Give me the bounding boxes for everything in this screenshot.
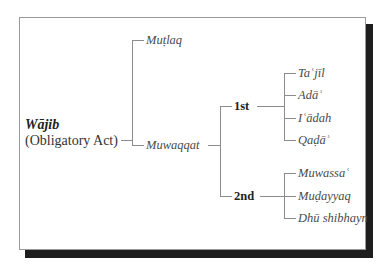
node-muwassa: Muwassaʿ	[298, 166, 349, 180]
level2-bracket	[220, 106, 221, 197]
node-first: 1st	[234, 99, 249, 113]
qada-connector	[284, 140, 296, 141]
ada-connector	[284, 95, 296, 96]
muwassa-connector	[284, 173, 296, 174]
first-group-bracket	[284, 73, 285, 141]
node-qada: Qaḍāʾ	[298, 133, 330, 147]
dhu-shibhayn-connector	[284, 218, 296, 219]
node-tajil: Taʿjīl	[298, 66, 325, 80]
mudayyaq-connector	[284, 196, 296, 197]
muwaqqat-connector	[132, 145, 144, 146]
tajil-connector	[284, 73, 296, 74]
level1-bracket	[132, 40, 133, 146]
node-mutlaq: Muṭlaq	[146, 33, 182, 47]
second-out-connector	[260, 196, 284, 197]
iadah-connector	[284, 118, 296, 119]
node-dhu-shibhayn: Dhū shibhayn	[298, 211, 368, 225]
first-out-connector	[257, 106, 284, 107]
root-node-subtitle: (Obligatory Act)	[25, 134, 118, 148]
first-connector	[220, 106, 232, 107]
second-connector	[220, 196, 232, 197]
muwaqqat-out-connector	[208, 145, 220, 146]
root-node-title: Wājib	[25, 118, 59, 132]
root-connector	[121, 140, 132, 141]
mutlaq-connector	[132, 40, 144, 41]
node-iadah: Iʿādah	[298, 111, 331, 125]
node-mudayyaq: Muḍayyaq	[298, 189, 351, 203]
node-muwaqqat: Muwaqqat	[146, 138, 199, 152]
node-ada: Adāʾ	[298, 88, 322, 102]
node-second: 2nd	[234, 189, 254, 203]
